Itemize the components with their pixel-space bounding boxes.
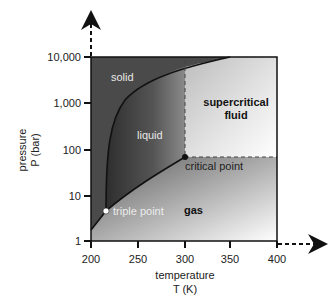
critical-point-label: critical point xyxy=(185,160,243,172)
x-tick-label: 300 xyxy=(176,253,194,265)
liquid-label: liquid xyxy=(137,129,163,141)
x-axis-ticks xyxy=(91,241,277,248)
x-tick-label: 250 xyxy=(129,253,147,265)
x-tick-label: 400 xyxy=(268,253,286,265)
supercritical-label: supercritical xyxy=(203,96,268,108)
y-tick-label: 10,000 xyxy=(47,51,81,63)
y-axis-ticks xyxy=(84,57,91,241)
y-tick-label: 100 xyxy=(63,144,81,156)
x-axis-label: temperature xyxy=(155,269,214,281)
y-axis-label-units: P (bar) xyxy=(29,133,41,166)
y-tick-label: 1,000 xyxy=(53,97,81,109)
y-axis-label: pressure xyxy=(16,129,28,172)
triple-point-marker xyxy=(103,208,109,214)
x-axis-label-units: T (K) xyxy=(173,283,197,295)
gas-label: gas xyxy=(184,204,203,216)
x-tick-label: 350 xyxy=(221,253,239,265)
y-tick-label: 1 xyxy=(75,235,81,247)
phase-diagram-chart: 10,000 1,000 100 10 1 200 250 300 350 40… xyxy=(0,0,336,305)
supercritical-label-line2: fluid xyxy=(224,109,247,121)
x-tick-label: 200 xyxy=(82,253,100,265)
solid-label: solid xyxy=(111,71,134,83)
triple-point-label: triple point xyxy=(113,205,164,217)
y-tick-label: 10 xyxy=(69,190,81,202)
